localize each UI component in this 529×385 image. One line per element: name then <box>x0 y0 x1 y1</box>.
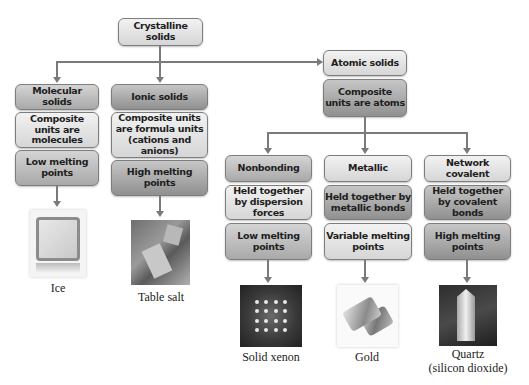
quartz-subcaption: (silicon dioxide) <box>413 361 523 375</box>
ionic-melting-node: High melting points <box>111 160 208 196</box>
table-salt-photo <box>131 220 190 285</box>
salt-crystal-shape <box>163 224 183 246</box>
arrow-down-icon <box>156 211 164 217</box>
table-salt-caption: Table salt <box>120 290 202 304</box>
connector-nonbonding-example <box>267 260 269 278</box>
connector-atomic-stem <box>364 117 366 133</box>
arrow-down-icon <box>463 148 471 154</box>
connector-atomic-horizontal <box>267 132 468 134</box>
connector-to-metallic <box>364 133 366 148</box>
metallic-bonding-node: Held together by metallic bonds <box>324 185 412 220</box>
solid-xenon-caption: Solid xenon <box>226 350 316 364</box>
network-melting-node: High melting points <box>424 223 511 260</box>
atomic-solids-node: Atomic solids <box>323 50 407 76</box>
arrow-down-icon <box>53 201 61 207</box>
connector-root-stem <box>159 46 161 62</box>
connector-metallic-example <box>364 260 366 278</box>
ice-cube-shape <box>36 217 80 261</box>
connector-to-network <box>466 132 468 148</box>
nonbonding-node: Nonbonding <box>225 155 312 182</box>
salt-crystal-shape <box>142 243 173 279</box>
network-covalent-node: Network covalent <box>424 155 511 182</box>
ionic-solids-node: Ionic solids <box>111 84 208 110</box>
quartz-photo <box>439 285 497 346</box>
connector-ionic-example <box>159 196 161 212</box>
nonbonding-bonding-node: Held together by dispersion forces <box>225 185 312 220</box>
connector-molecular-example <box>56 186 58 202</box>
nonbonding-melting-node: Low melting points <box>225 223 312 260</box>
arrow-down-icon <box>463 277 471 283</box>
connector-to-nonbonding <box>267 132 269 148</box>
root-node-crystalline-solids: Crystalline solids <box>118 18 203 46</box>
arrow-down-icon <box>361 277 369 283</box>
molecular-solids-node: Molecular solids <box>15 84 99 110</box>
ice-photo <box>30 210 86 277</box>
connector-network-example <box>466 260 468 278</box>
ice-reflection <box>36 263 80 273</box>
gold-caption: Gold <box>327 350 407 364</box>
xenon-lattice-grid <box>252 297 290 335</box>
atomic-composite-node: Composite units are atoms <box>323 79 407 117</box>
molecular-melting-node: Low melting points <box>15 150 99 186</box>
arrow-down-icon <box>53 77 61 83</box>
network-bonding-node: Held together by covalent bonds <box>424 185 511 220</box>
molecular-composite-node: Composite units are molecules <box>15 112 99 148</box>
ionic-composite-node: Composite units are formula units (catio… <box>111 112 208 158</box>
arrow-down-icon <box>264 148 272 154</box>
metallic-node: Metallic <box>324 155 412 182</box>
arrow-down-icon <box>264 277 272 283</box>
connector-to-molecular <box>56 61 58 77</box>
gold-photo <box>337 285 398 347</box>
solid-xenon-photo <box>240 285 302 347</box>
connector-to-ionic <box>159 62 161 77</box>
metallic-melting-node: Variable melting points <box>324 223 412 260</box>
arrow-down-icon <box>156 77 164 83</box>
quartz-crystal-shape <box>457 289 475 341</box>
connector-top-horizontal <box>56 61 318 63</box>
ice-caption: Ice <box>20 281 96 295</box>
quartz-caption: Quartz <box>418 347 518 361</box>
arrow-down-icon <box>361 148 369 154</box>
